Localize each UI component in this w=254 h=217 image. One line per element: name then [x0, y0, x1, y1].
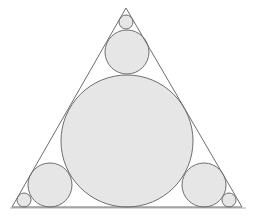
- triangle-circles-diagram: [0, 0, 254, 217]
- left-medium-circle: [28, 163, 72, 207]
- right-medium-circle: [182, 163, 226, 207]
- incircle: [61, 75, 193, 207]
- right-small-circle: [222, 193, 236, 207]
- circles-group: [17, 15, 236, 207]
